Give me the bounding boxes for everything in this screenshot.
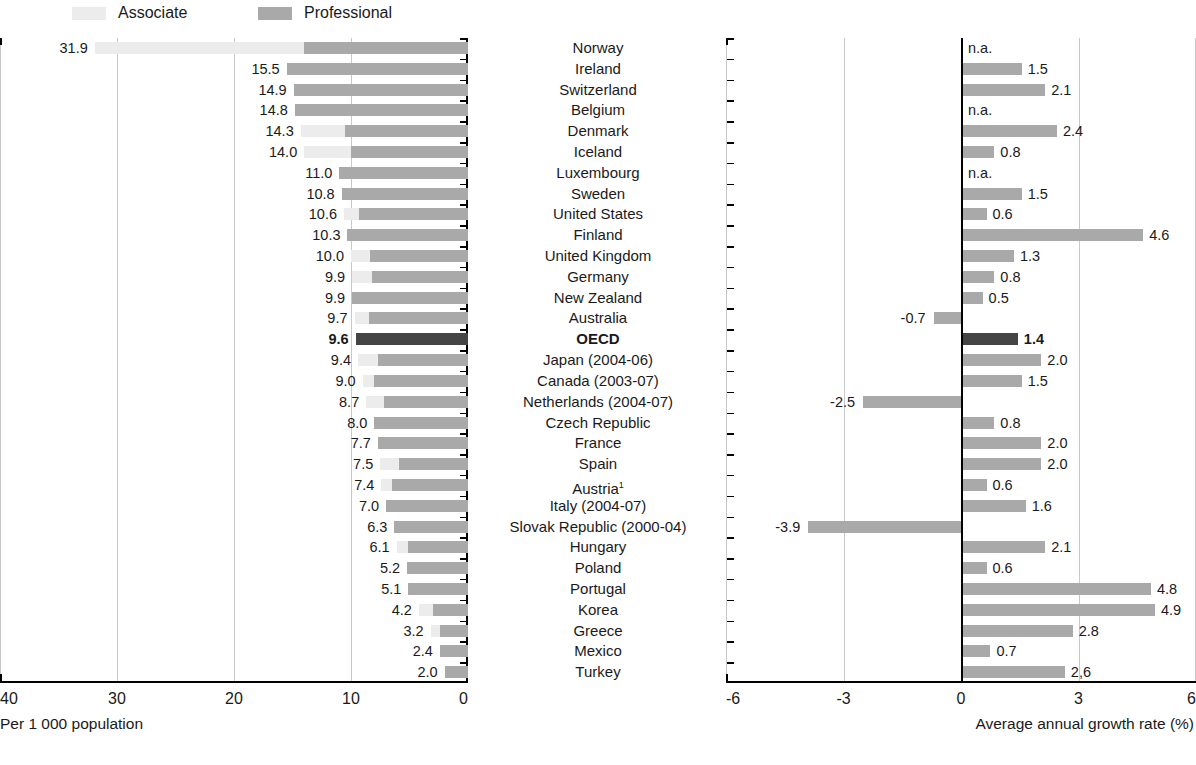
left-axis-tick — [460, 204, 467, 206]
country-label: Mexico — [470, 641, 726, 661]
right-axis-tick — [727, 454, 734, 456]
left-axis-tick-label: 40 — [0, 688, 18, 710]
right-bar-value-label: 1.3 — [1020, 248, 1040, 264]
left-bar-row: 7.0 — [0, 496, 468, 516]
right-axis-tick — [727, 121, 734, 123]
legend-swatch-associate — [72, 7, 106, 20]
right-bar — [963, 188, 1022, 200]
right-axis-tick — [727, 496, 734, 498]
right-bar-row: -2.5 — [726, 392, 1196, 412]
left-bar-segment-professional — [408, 541, 468, 553]
left-bar-segment-professional — [339, 167, 468, 179]
left-bar-value-label: 9.4 — [331, 352, 351, 368]
country-label: Australia — [470, 308, 726, 328]
left-bar-value-label: 14.9 — [258, 82, 286, 98]
left-bar-segment-professional — [352, 292, 468, 304]
left-bar-value-label: 10.0 — [316, 248, 344, 264]
left-bar-value-label: 6.3 — [367, 519, 387, 535]
right-axis-tick — [727, 662, 734, 664]
right-chart-rows: n.a.1.52.1n.a.2.40.8n.a.1.50.64.61.30.80… — [726, 38, 1196, 683]
right-bar-value-label: 0.5 — [989, 290, 1009, 306]
chart-legend: AssociateProfessional — [0, 0, 480, 26]
legend-swatch-professional — [258, 7, 292, 20]
right-bar-na-label: n.a. — [968, 40, 992, 56]
right-bar-row: -3.9 — [726, 517, 1196, 537]
left-bar-segment-professional — [295, 104, 468, 116]
left-bar-segment-associate — [351, 250, 370, 262]
right-bar — [963, 125, 1057, 137]
right-bar-row: 2.1 — [726, 537, 1196, 557]
left-bar-segment-associate — [397, 541, 409, 553]
right-axis-tick — [727, 579, 734, 581]
left-bar-segment-associate — [355, 312, 369, 324]
left-bar-segment-associate — [380, 458, 399, 470]
left-bar-segment-professional — [445, 666, 468, 678]
country-label: Belgium — [470, 100, 726, 120]
right-bar — [963, 84, 1045, 96]
left-bar-segment-professional — [287, 63, 468, 75]
right-bar — [963, 645, 990, 657]
right-bar — [963, 479, 987, 491]
left-bar-segment-professional — [433, 604, 468, 616]
left-axis-tick — [460, 600, 467, 602]
right-bar — [934, 312, 961, 324]
country-label: Greece — [470, 621, 726, 641]
left-bar-value-label: 11.0 — [305, 165, 332, 181]
country-label: Italy (2004-07) — [470, 496, 726, 516]
left-bar-row: 9.9 — [0, 288, 468, 308]
right-axis-tick — [727, 641, 734, 643]
left-bar-segment-associate — [352, 271, 372, 283]
left-axis-tick — [460, 413, 467, 415]
right-axis-tick — [727, 392, 734, 394]
left-bar-segment-professional — [378, 354, 468, 366]
right-axis-tick-label: 6 — [1187, 688, 1196, 710]
country-label: Luxembourg — [470, 163, 726, 183]
left-axis-tick — [460, 80, 467, 82]
left-bar-value-label: 9.9 — [325, 290, 345, 306]
right-axis-tick — [727, 246, 734, 248]
left-axis-tick — [460, 184, 467, 186]
left-bar-row: 10.3 — [0, 225, 468, 245]
right-bar — [963, 146, 994, 158]
right-bar-value-label: 4.6 — [1149, 227, 1169, 243]
right-bar-row: 4.9 — [726, 600, 1196, 620]
left-bar-row: 5.2 — [0, 558, 468, 578]
left-bar-row: 9.7 — [0, 308, 468, 328]
left-bar-value-label: 9.9 — [325, 269, 345, 285]
left-bar-row: 3.2 — [0, 621, 468, 641]
right-bar-row: 2.8 — [726, 621, 1196, 641]
left-bar-value-label: 9.0 — [336, 373, 356, 389]
left-bar-row: 14.0 — [0, 142, 468, 162]
left-bar-row: 9.4 — [0, 350, 468, 370]
left-bar-row: 2.0 — [0, 662, 468, 682]
left-bar-row: 15.5 — [0, 59, 468, 79]
right-bar-value-label: 1.4 — [1024, 331, 1044, 347]
right-bar-row: 4.6 — [726, 225, 1196, 245]
left-bar-value-label: 3.2 — [403, 623, 423, 639]
left-bar-segment-professional — [392, 479, 468, 491]
left-bar-segment-professional — [345, 125, 468, 137]
country-label: Ireland — [470, 59, 726, 79]
right-axis-tick — [727, 413, 734, 415]
right-bar-value-label: 1.5 — [1028, 61, 1048, 77]
country-label: Norway — [470, 38, 726, 58]
country-label: New Zealand — [470, 288, 726, 308]
country-label: Iceland — [470, 142, 726, 162]
country-label: United Kingdom — [470, 246, 726, 266]
right-bar-value-label: 1.5 — [1028, 186, 1048, 202]
right-bar-value-label: 1.5 — [1028, 373, 1048, 389]
right-bar-value-label: 4.8 — [1157, 581, 1177, 597]
right-bar — [963, 666, 1065, 678]
left-bar-row: 7.5 — [0, 454, 468, 474]
left-axis-tick — [460, 641, 467, 643]
country-label-column: NorwayIrelandSwitzerlandBelgiumDenmarkIc… — [470, 38, 726, 683]
left-bar-segment-professional — [351, 146, 468, 158]
left-bar-segment-associate — [358, 354, 378, 366]
left-axis-tick — [460, 288, 467, 290]
right-bar-value-label: -2.5 — [830, 394, 855, 410]
country-label: Netherlands (2004-07) — [470, 392, 726, 412]
left-bar-value-label: 9.6 — [329, 331, 349, 347]
left-bar-segment-professional — [374, 417, 468, 429]
right-axis-tick — [727, 163, 734, 165]
left-axis-tick — [460, 579, 467, 581]
